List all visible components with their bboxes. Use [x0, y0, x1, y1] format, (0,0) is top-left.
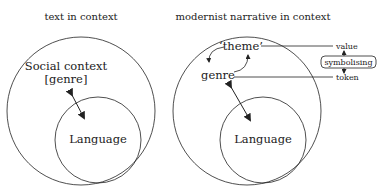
genre-to-theme-arrow-icon [234, 55, 248, 72]
left-title: text in context [44, 11, 117, 22]
double-arrow-icon [72, 95, 84, 118]
language-label-right: Language [234, 132, 292, 146]
right-diagram: modernist narrative in context ‘theme’ g… [173, 11, 376, 185]
language-label: Language [69, 132, 127, 146]
right-title: modernist narrative in context [176, 11, 331, 22]
genre-bracket-label: [genre] [45, 72, 88, 86]
double-arrow-icon-right [231, 87, 250, 120]
token-label: token [336, 73, 359, 82]
context-circle [173, 37, 321, 185]
theme-label: ‘theme’ [219, 39, 263, 53]
left-diagram: text in context Social context [genre] L… [7, 11, 155, 185]
value-label: value [335, 42, 358, 51]
diagram-canvas: text in context Social context [genre] L… [0, 0, 378, 193]
social-context-label: Social context [25, 59, 108, 73]
genre-label: genre [201, 68, 235, 82]
symbolising-label: symbolising [324, 58, 372, 67]
